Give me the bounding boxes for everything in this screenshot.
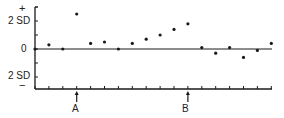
data-point — [131, 42, 134, 45]
y-label-zero: 0 — [21, 44, 27, 54]
data-point — [75, 12, 78, 15]
sd-score-chart — [0, 0, 284, 118]
data-point — [145, 38, 148, 41]
arrow-head-icon — [75, 91, 79, 95]
data-point — [228, 46, 231, 49]
arrow-head-icon — [186, 91, 190, 95]
data-point — [159, 33, 162, 36]
y-label-upper-2sd: 2 SD — [8, 16, 30, 26]
marker-b-label: B — [182, 104, 189, 114]
data-point — [270, 42, 273, 45]
data-point — [103, 40, 106, 43]
data-point — [242, 56, 245, 59]
data-point — [47, 43, 50, 46]
data-point — [172, 28, 175, 31]
data-point — [186, 22, 189, 25]
annotations — [75, 91, 190, 102]
data-point — [256, 49, 259, 52]
data-point — [200, 46, 203, 49]
data-point — [61, 47, 64, 50]
data-point — [89, 42, 92, 45]
data-points — [33, 12, 273, 59]
data-point — [33, 47, 36, 50]
data-point — [117, 47, 120, 50]
axes — [35, 7, 272, 89]
y-label-plus-sign: + — [19, 3, 25, 13]
marker-a-label: A — [72, 104, 79, 114]
y-label-minus-sign: − — [19, 80, 25, 90]
data-point — [214, 52, 217, 55]
